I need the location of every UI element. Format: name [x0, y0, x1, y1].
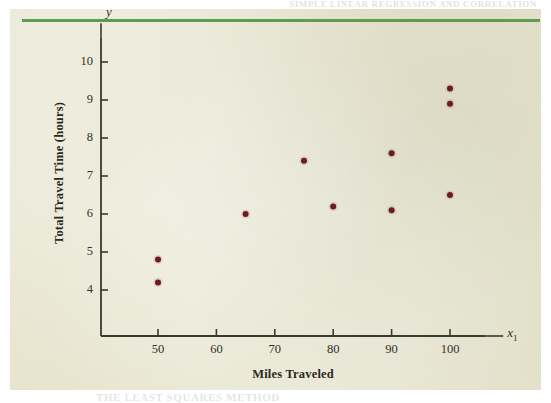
x-axis-tick-label: 60 [196, 342, 236, 357]
data-point [329, 202, 338, 211]
y-axis-tick-label: 10 [65, 54, 93, 69]
data-point [445, 84, 454, 93]
y-axis-title: Total Travel Time (hours) [52, 102, 67, 244]
x-axis-tick-label: 70 [255, 342, 295, 357]
y-axis-tick-label: 5 [65, 244, 93, 259]
y-axis-variable-label: y [106, 9, 112, 20]
scatter-plot: 456789105060708090100yx1Miles TraveledTo… [10, 9, 541, 390]
data-point [153, 255, 162, 264]
data-point [445, 190, 454, 199]
data-point [299, 156, 308, 165]
x-axis-tick-label: 80 [313, 342, 353, 357]
data-point [387, 206, 396, 215]
x-axis-tick-label: 90 [372, 342, 412, 357]
data-point [445, 99, 454, 108]
x-axis-variable-label: x1 [507, 325, 517, 343]
data-point [241, 209, 250, 218]
data-point [387, 149, 396, 158]
bleed-through-header-text: SIMPLE LINEAR REGRESSION AND CORRELATION [289, 0, 537, 9]
x-axis-tick-label: 50 [138, 342, 178, 357]
x-axis-variable-subscript: 1 [513, 333, 518, 343]
y-axis-tick-label: 9 [65, 92, 93, 107]
x-axis-title: Miles Traveled [101, 367, 485, 382]
x-axis-tick-label: 100 [430, 342, 470, 357]
y-axis-tick-label: 7 [65, 168, 93, 183]
y-axis-tick-label: 6 [65, 206, 93, 221]
y-axis-tick-label: 8 [65, 130, 93, 145]
y-axis-tick-label: 4 [65, 282, 93, 297]
bleed-through-footer-text: THE LEAST SQUARES METHOD [96, 391, 280, 403]
figure-panel: 456789105060708090100yx1Miles TraveledTo… [10, 9, 541, 390]
data-point [153, 278, 162, 287]
